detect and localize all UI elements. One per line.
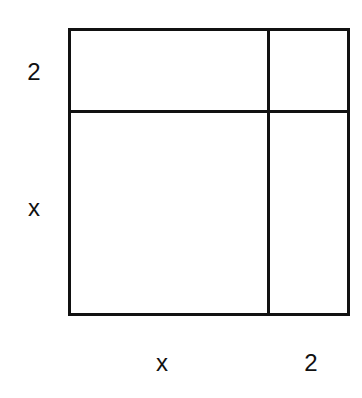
label-bottom-right: 2 bbox=[296, 351, 326, 375]
horizontal-divider bbox=[68, 110, 350, 113]
outer-box-left-edge bbox=[68, 28, 71, 316]
outer-box-right-edge bbox=[347, 28, 350, 316]
label-left-top: 2 bbox=[19, 60, 49, 84]
label-left-bottom: x bbox=[19, 196, 49, 220]
area-model-diagram: 2 x x 2 bbox=[0, 0, 362, 398]
outer-box-top-edge bbox=[68, 28, 350, 31]
outer-box-bottom-edge bbox=[68, 313, 350, 316]
vertical-divider bbox=[267, 28, 270, 316]
label-bottom-left: x bbox=[147, 351, 177, 375]
